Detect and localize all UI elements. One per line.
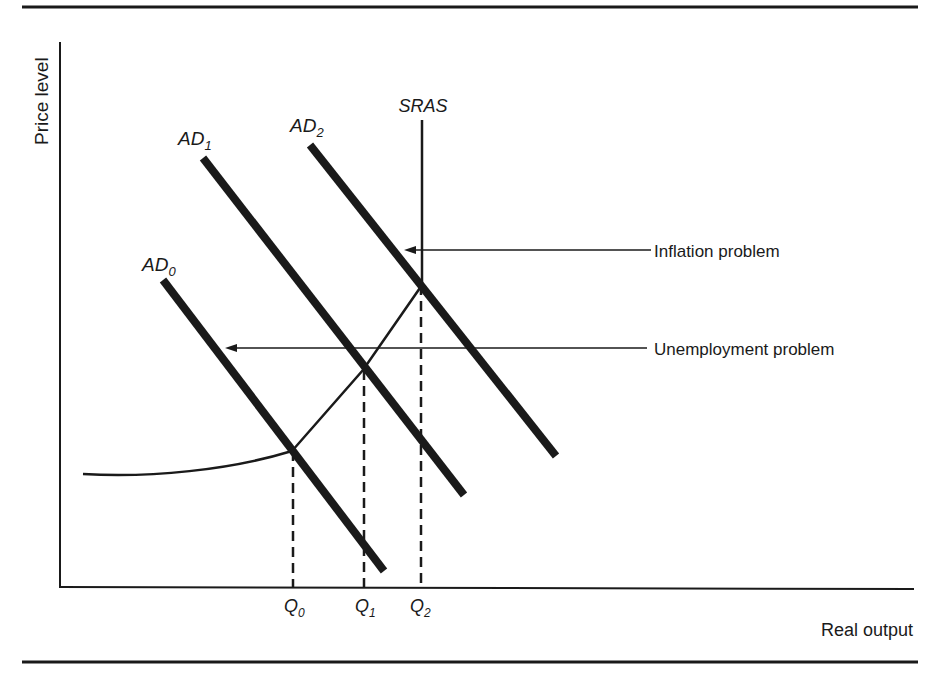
ad0-curve [163, 280, 384, 571]
q0-label: Q0 [284, 596, 305, 620]
unemployment-annotation: Unemployment problem [654, 340, 834, 359]
inflation-annotation: Inflation problem [654, 242, 780, 261]
ad2-curve [310, 145, 556, 456]
ad2-label: AD2 [289, 115, 324, 140]
sras-label: SRAS [398, 96, 447, 116]
x-axis [59, 587, 914, 589]
sras-curve [83, 120, 422, 475]
y-axis-label: Price level [31, 57, 52, 145]
unemployment-arrowhead-icon [225, 344, 237, 352]
inflation-arrowhead-icon [404, 246, 416, 254]
ad-sras-diagram: Price level Real output AD0 AD1 AD2 SRAS… [0, 0, 949, 673]
q2-label: Q2 [410, 596, 431, 620]
x-axis-label: Real output [821, 620, 913, 640]
ad0-label: AD0 [141, 254, 176, 279]
ad1-label: AD1 [177, 128, 212, 153]
q1-label: Q1 [355, 596, 376, 620]
ad1-curve [203, 158, 464, 495]
